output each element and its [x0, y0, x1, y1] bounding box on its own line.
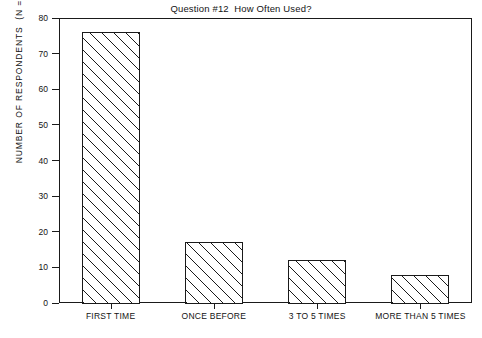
- y-tick-label: 30: [26, 191, 48, 201]
- x-tick-label: MORE THAN 5 TIMES: [375, 311, 465, 321]
- y-tick-mark: [52, 196, 59, 197]
- y-tick-mark: [52, 53, 59, 54]
- y-tick-mark: [52, 303, 59, 304]
- x-tick-label: 3 TO 5 TIMES: [289, 311, 346, 321]
- x-tick-mark: [214, 303, 215, 309]
- y-tick-label: 50: [26, 120, 48, 130]
- y-tick-mark: [52, 89, 59, 90]
- x-tick-mark: [420, 303, 421, 309]
- chart-figure: Question #12 How Often Used? NUMBER OF R…: [0, 0, 482, 338]
- y-tick-mark: [52, 124, 59, 125]
- y-tick-label: 40: [26, 156, 48, 166]
- y-axis-title: NUMBER OF RESPONDENTS (N = 112): [14, 0, 24, 180]
- y-tick-mark: [52, 267, 59, 268]
- y-tick-label: 10: [26, 262, 48, 272]
- bar: [82, 32, 140, 304]
- bar: [391, 275, 449, 305]
- bar: [288, 260, 346, 304]
- y-tick-mark: [52, 160, 59, 161]
- y-tick-mark: [52, 18, 59, 19]
- x-tick-label: ONCE BEFORE: [182, 311, 247, 321]
- y-tick-label: 60: [26, 84, 48, 94]
- y-tick-label: 0: [26, 298, 48, 308]
- chart-title: Question #12 How Often Used?: [0, 3, 482, 14]
- x-tick-mark: [111, 303, 112, 309]
- y-tick-label: 20: [26, 227, 48, 237]
- x-tick-label: FIRST TIME: [86, 311, 135, 321]
- bar: [185, 242, 243, 304]
- y-tick-label: 70: [26, 49, 48, 59]
- y-tick-mark: [52, 231, 59, 232]
- x-tick-mark: [317, 303, 318, 309]
- y-tick-label: 80: [26, 13, 48, 23]
